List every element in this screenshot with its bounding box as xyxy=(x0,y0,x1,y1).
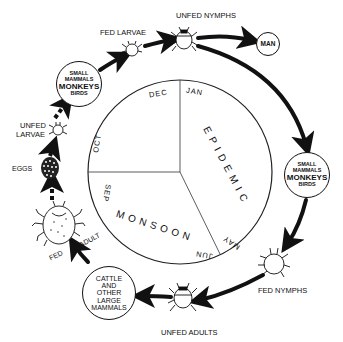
arrow-small-hosts-to-fed-nymphs xyxy=(288,200,306,243)
unfed-nymph-tick-icon xyxy=(171,27,197,51)
host-circle-cattle-large-mammals: CATTLE AND OTHER LARGE MAMMALS xyxy=(82,266,136,320)
host-text-large: LARGE xyxy=(97,297,121,304)
host-text-man: MAN xyxy=(261,41,276,48)
arrow-fed-larvae-to-unfed-nymphs xyxy=(145,40,170,46)
dashed-arrows xyxy=(50,103,66,200)
arrow-small-hosts-to-fed-larvae xyxy=(100,57,122,70)
label-unfed-nymphs: UNFED NYMPHS xyxy=(176,12,236,20)
eggs-icon xyxy=(41,157,59,179)
label-eggs: EGGS xyxy=(12,165,32,172)
label-fed-nymphs: FED NYMPHS xyxy=(258,287,307,295)
unfed-larva-tick-icon xyxy=(49,122,67,135)
arrow-fed-nymphs-to-unfed-adults xyxy=(200,275,263,300)
label-fed-larvae: FED LARVAE xyxy=(100,29,146,37)
host-text-birds: BIRDS xyxy=(70,91,87,97)
host-text-other: OTHER xyxy=(97,289,122,296)
host-text-birds: BIRDS xyxy=(298,182,315,188)
host-text-mammals: MAMMALS xyxy=(91,304,126,311)
tick-life-cycle-diagram: UNFED NYMPHS FED LARVAE UNFED LARVAE EGG… xyxy=(0,0,343,342)
fed-adult-tick-icon xyxy=(32,201,85,246)
host-circle-small-mammals-left: SMALL MAMMALS MONKEYS BIRDS xyxy=(56,61,102,107)
fed-larva-tick-icon xyxy=(122,41,142,56)
label-unfed-adults: UNFED ADULTS xyxy=(161,329,218,337)
host-circle-small-mammals-right: SMALL MAMMALS MONKEYS BIRDS xyxy=(284,152,330,198)
arrow-unfed-adults-to-large-hosts xyxy=(143,296,171,297)
label-unfed-larvae-line2: LARVAE xyxy=(16,131,45,139)
host-circle-man: MAN xyxy=(256,32,280,56)
arrow-unfed-larvae-to-small-hosts xyxy=(55,103,66,118)
arrow-eggs-to-unfed-larvae xyxy=(50,147,53,156)
label-unfed-larvae-line1: UNFED xyxy=(20,122,46,130)
arrow-unfed-nymphs-to-man xyxy=(198,36,250,40)
host-text-and: AND xyxy=(102,282,117,289)
fed-nymph-tick-icon xyxy=(258,248,290,277)
arrow-large-hosts-to-fed-adult xyxy=(75,246,88,262)
month-jun: JUN xyxy=(195,250,214,260)
host-text-cattle: CATTLE xyxy=(96,275,122,282)
